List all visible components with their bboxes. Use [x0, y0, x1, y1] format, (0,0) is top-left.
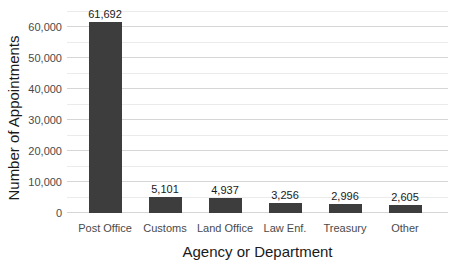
bar-other — [389, 205, 422, 213]
gridline-major — [67, 150, 448, 151]
bar-land-office — [209, 198, 242, 213]
bar-treasury — [329, 204, 362, 213]
bar-value-label: 2,605 — [370, 191, 440, 204]
y-tick-label: 20,000 — [10, 145, 62, 158]
gridline-minor — [67, 42, 448, 43]
appointments-bar-chart: Number of Appointments 61,6925,1014,9373… — [0, 0, 453, 274]
gridline-major — [67, 119, 448, 120]
gridline-minor — [67, 166, 448, 167]
y-tick-label: 0 — [10, 207, 62, 220]
bar-value-label: 61,692 — [70, 8, 140, 21]
y-tick-label: 50,000 — [10, 52, 62, 65]
gridline-minor — [67, 135, 448, 136]
plot-area: 61,6925,1014,9373,2562,9962,605 — [67, 8, 448, 213]
y-tick-label: 30,000 — [10, 114, 62, 127]
gridline-major — [67, 181, 448, 182]
x-axis-title: Agency or Department — [67, 243, 448, 261]
y-tick-label: 40,000 — [10, 83, 62, 96]
x-tick-label: Other — [365, 222, 445, 235]
gridline-minor — [67, 73, 448, 74]
bar-customs — [149, 197, 182, 213]
gridline-major — [67, 26, 448, 27]
gridline-major — [67, 88, 448, 89]
gridline-major — [67, 57, 448, 58]
bar-post-office — [89, 22, 122, 213]
gridline-minor — [67, 104, 448, 105]
bar-law-enf- — [269, 203, 302, 213]
y-tick-label: 10,000 — [10, 176, 62, 189]
y-tick-label: 60,000 — [10, 21, 62, 34]
